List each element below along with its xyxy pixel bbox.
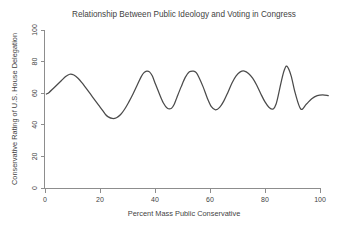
chart-figure: Relationship Between Public Ideology and… [0, 0, 338, 229]
x-tick-label: 20 [96, 196, 104, 203]
y-tick-label: 100 [31, 24, 38, 36]
x-tick-label: 0 [43, 196, 47, 203]
chart-canvas: Relationship Between Public Ideology and… [0, 0, 338, 229]
y-tick-label: 0 [31, 186, 38, 190]
x-tick-label: 60 [206, 196, 214, 203]
y-axis-ticks: 020406080100 [31, 24, 46, 190]
y-tick-label: 40 [31, 121, 38, 129]
x-axis-label: Percent Mass Public Conservative [128, 209, 241, 218]
y-tick-label: 20 [31, 152, 38, 160]
x-tick-label: 100 [314, 196, 326, 203]
x-axis-ticks: 020406080100 [43, 188, 326, 203]
y-tick-label: 60 [31, 89, 38, 97]
x-tick-label: 80 [261, 196, 269, 203]
y-tick-label: 80 [31, 58, 38, 66]
x-tick-label: 40 [151, 196, 159, 203]
y-axis-label: Conservative Rating of U.S. House Delega… [10, 33, 19, 185]
data-curve-line [46, 66, 328, 118]
chart-title: Relationship Between Public Ideology and… [72, 10, 296, 19]
